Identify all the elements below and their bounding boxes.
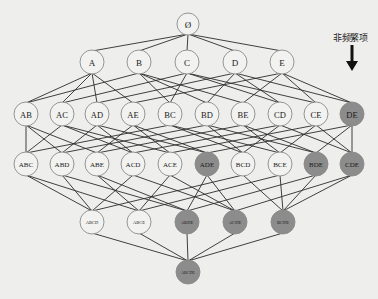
itemset-label: BCDE [277, 220, 289, 225]
itemset-label: D [232, 58, 239, 68]
itemset-label: C [184, 58, 190, 68]
lattice-edge [139, 175, 280, 211]
itemset-label: AB [20, 110, 32, 120]
itemset-label: ABC [19, 161, 34, 169]
itemset-node-ABDE: ABDE [175, 210, 199, 234]
itemset-node-BCD: BCD [231, 152, 255, 176]
itemset-label: CDE [345, 161, 359, 169]
itemset-node-ABCDE: ABCDE [176, 260, 200, 284]
lattice-edge [62, 73, 92, 103]
itemset-node-E: E [270, 50, 294, 74]
itemset-label: BDE [309, 161, 323, 169]
itemset-label: BCE [273, 161, 287, 169]
lattice-edge [188, 233, 283, 261]
itemset-label: ABE [90, 161, 104, 169]
itemset-node-D: D [223, 50, 247, 74]
itemset-lattice-diagram: ØABCDEABACADAEBCBDBECDCEDEABCABDABEACDAC… [0, 0, 378, 299]
itemset-label: CD [274, 110, 286, 120]
itemset-label: ACDE [229, 220, 242, 225]
lattice-edge [133, 125, 280, 153]
itemset-node-BC: BC [158, 102, 182, 126]
itemset-label: ACD [126, 161, 141, 169]
itemset-node-CE: CE [304, 102, 328, 126]
lattice-edge [92, 34, 188, 51]
itemset-node-AB: AB [14, 102, 38, 126]
lattice-edge [62, 125, 207, 153]
itemset-label: B [136, 58, 142, 68]
itemset-node-ABCE: ABCE [127, 210, 151, 234]
lattice-edge [97, 175, 187, 211]
down-arrow-icon [346, 45, 358, 71]
itemset-node-ABE: ABE [85, 152, 109, 176]
lattice-edge [207, 73, 235, 103]
lattice-edge [92, 73, 97, 103]
lattice-edge [139, 233, 188, 261]
itemset-label: DE [346, 110, 357, 120]
itemset-node-CDE: CDE [340, 152, 364, 176]
itemset-node-DE: DE [340, 102, 364, 126]
lattice-edge [26, 125, 170, 153]
lattice-edge [188, 233, 235, 261]
itemset-label: AD [91, 110, 103, 120]
lattice-edge [243, 73, 282, 103]
itemset-label: ADE [200, 161, 214, 169]
lattice-edge [280, 175, 283, 211]
itemset-node-ABD: ABD [50, 152, 74, 176]
itemset-label: E [279, 58, 285, 68]
itemset-node-AD: AD [85, 102, 109, 126]
itemset-node-BCDE: BCDE [271, 210, 295, 234]
itemset-label: BC [164, 110, 176, 120]
lattice-edge [187, 233, 188, 261]
itemset-label: BCD [236, 161, 250, 169]
itemset-node-BD: BD [195, 102, 219, 126]
itemset-label: BD [201, 110, 213, 120]
itemset-label: AC [56, 110, 68, 120]
itemset-node-ADE: ADE [195, 152, 219, 176]
itemset-label: Ø [185, 20, 192, 30]
infrequent-itemset-label: 非频繁项 [330, 31, 370, 44]
itemset-label: AE [127, 110, 138, 120]
itemset-node-ABC: ABC [14, 152, 38, 176]
lattice-edge [170, 125, 316, 153]
lattice-edge [139, 34, 188, 51]
itemset-node-ACDE: ACDE [223, 210, 247, 234]
itemset-node-BCE: BCE [268, 152, 292, 176]
itemset-node-ACE: ACE [158, 152, 182, 176]
itemset-label: BE [238, 110, 249, 120]
lattice-edge [62, 175, 92, 211]
lattice-edge [207, 125, 352, 153]
lattice-edge [92, 175, 133, 211]
lattice-edge [187, 73, 280, 103]
itemset-label: ABCE [133, 220, 145, 225]
lattice-edge [92, 73, 133, 103]
lattice-edge [188, 34, 282, 51]
lattice-edge [282, 73, 316, 103]
lattice-edge [97, 175, 139, 211]
itemset-node-ACD: ACD [121, 152, 145, 176]
itemset-label: ABCDE [181, 270, 195, 275]
lattice-edge [26, 125, 97, 153]
itemset-node-AE: AE [121, 102, 145, 126]
itemset-node-CD: CD [268, 102, 292, 126]
lattice-edge [187, 175, 207, 211]
lattice-edge [97, 125, 243, 153]
itemset-label: ABD [55, 161, 70, 169]
itemset-node-ABCD: ABCD [80, 210, 104, 234]
lattice-edge [188, 34, 235, 51]
lattice-edge [170, 175, 235, 211]
itemset-node-BE: BE [231, 102, 255, 126]
lattice-edge [280, 125, 352, 153]
lattice-edge [139, 175, 170, 211]
lattice-edge [92, 233, 188, 261]
itemset-node-BDE: BDE [304, 152, 328, 176]
lattice-edge [97, 73, 235, 103]
itemset-node-A: A [80, 50, 104, 74]
itemset-node-B: B [127, 50, 151, 74]
itemset-label: ABDE [181, 220, 194, 225]
itemset-node-C: C [175, 50, 199, 74]
lattice-edge [243, 175, 283, 211]
lattice-edge [283, 175, 316, 211]
itemset-label: ABCD [86, 220, 99, 225]
lattice-edge [187, 34, 188, 51]
itemset-node-empty: Ø [177, 13, 199, 35]
